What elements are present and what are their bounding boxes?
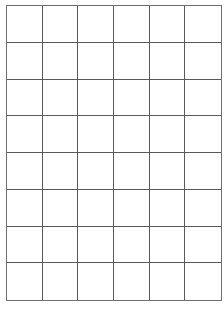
grid-cell <box>185 116 221 153</box>
grid-cell <box>7 190 43 227</box>
grid-cell <box>150 43 186 80</box>
grid-cell <box>185 43 221 80</box>
grid-cell <box>78 190 114 227</box>
grid-cell <box>7 80 43 117</box>
grid-cell <box>114 43 150 80</box>
grid-cell <box>150 80 186 117</box>
grid-cell <box>185 190 221 227</box>
grid-cell <box>43 263 79 300</box>
grid-cell <box>43 227 79 264</box>
grid-cell <box>43 190 79 227</box>
grid-cell <box>78 6 114 43</box>
grid-cell <box>114 263 150 300</box>
grid-cell <box>185 6 221 43</box>
grid-cell <box>78 43 114 80</box>
grid-cell <box>114 190 150 227</box>
grid-cell <box>78 263 114 300</box>
grid-cell <box>185 227 221 264</box>
grid-cell <box>185 80 221 117</box>
grid-cell <box>150 263 186 300</box>
grid-cell <box>78 227 114 264</box>
grid-cell <box>43 80 79 117</box>
grid-cell <box>150 6 186 43</box>
grid-cell <box>114 80 150 117</box>
grid-cell <box>78 153 114 190</box>
grid-cell <box>185 153 221 190</box>
grid-cell <box>43 153 79 190</box>
grid-cell <box>150 190 186 227</box>
grid-cell <box>114 116 150 153</box>
grid-cell <box>7 227 43 264</box>
grid-cell <box>150 153 186 190</box>
grid-cell <box>43 43 79 80</box>
grid-cell <box>43 116 79 153</box>
grid-cell <box>185 263 221 300</box>
grid-cell <box>78 116 114 153</box>
grid-cell <box>7 116 43 153</box>
grid-cell <box>7 153 43 190</box>
grid-cell <box>7 263 43 300</box>
grid-cell <box>78 80 114 117</box>
grid-cell <box>7 43 43 80</box>
empty-table-grid <box>6 5 222 301</box>
grid-cell <box>114 153 150 190</box>
grid-cell <box>114 227 150 264</box>
grid-cell <box>150 227 186 264</box>
grid-cell <box>7 6 43 43</box>
grid-cell <box>43 6 79 43</box>
grid-cell <box>114 6 150 43</box>
grid-cell <box>150 116 186 153</box>
